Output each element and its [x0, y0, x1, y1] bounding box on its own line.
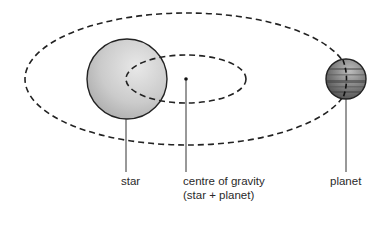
centre-of-gravity-label: centre of gravity (star + planet) [183, 174, 265, 202]
centre-of-gravity-label-line2: (star + planet) [183, 188, 265, 202]
star-label: star [121, 174, 140, 188]
star-icon [87, 39, 167, 119]
planet-label: planet [330, 174, 361, 188]
centre-of-gravity-label-line1: centre of gravity [183, 174, 265, 188]
